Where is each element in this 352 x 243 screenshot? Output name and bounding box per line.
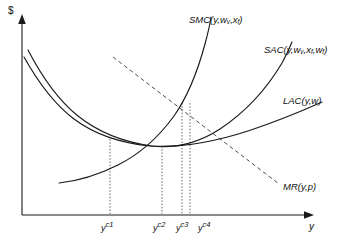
smc-label-args: y,w <box>213 14 227 25</box>
x-axis-arrowhead <box>304 211 314 219</box>
sac-label-mid2: ,w <box>313 44 323 55</box>
tick-label-yc3: yc3 <box>176 221 188 233</box>
tick-yc2-exp: c2 <box>158 220 166 229</box>
lac-label-end: ) <box>318 95 321 106</box>
tick-yc1-exp: c1 <box>106 220 114 229</box>
mr-label-args: y,p <box>301 181 313 192</box>
smc-label-end: ) <box>239 14 242 25</box>
mr-label-main: MR( <box>283 181 301 192</box>
smc-curve <box>59 17 211 183</box>
y-axis-label: $ <box>8 6 14 16</box>
tick-yc3-exp: c3 <box>181 220 189 229</box>
tick-yc4-exp: c4 <box>203 220 211 229</box>
sac-label-mid: ,x <box>304 44 311 55</box>
smc-label-mid: ,x <box>230 14 237 25</box>
mr-label-end: ) <box>313 181 316 192</box>
tick-label-yc1: yc1 <box>101 221 113 233</box>
y-axis-arrowhead <box>18 14 26 24</box>
economics-cost-curve-figure: $ y SMC(y,wv,xf) SAC(y,wv,xf,wf) LAC(y,w… <box>0 0 352 243</box>
smc-label-main: SMC( <box>189 14 213 25</box>
lac-label-args: y,w <box>305 95 319 106</box>
sac-curve-label: SAC(y,wv,xf,wf) <box>264 45 327 56</box>
lac-curve-label: LAC(y,w) <box>283 96 321 106</box>
figure-canvas <box>0 0 352 243</box>
mr-curve <box>113 57 279 184</box>
sac-label-main: SAC( <box>264 44 287 55</box>
tick-label-yc2: yc2 <box>153 221 165 233</box>
tick-label-yc4: yc4 <box>198 221 210 233</box>
x-axis-label: y <box>309 222 314 232</box>
smc-curve-label: SMC(y,wv,xf) <box>189 15 243 26</box>
sac-label-end: ) <box>324 44 327 55</box>
sac-label-args: y,w <box>287 44 301 55</box>
lac-label-main: LAC( <box>283 95 305 106</box>
mr-curve-label: MR(y,p) <box>283 182 316 192</box>
sac-curve <box>28 42 292 147</box>
